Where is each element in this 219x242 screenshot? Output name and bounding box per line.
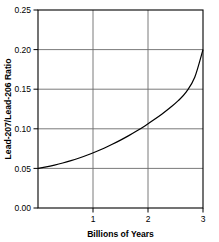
plot-area-background [38,10,203,208]
x-axis-title: Billions of Years [87,229,154,239]
x-tick-label-1: 2 [146,214,151,224]
y-axis-title: Lead-207/Lead-206 Ratio [3,59,13,160]
y-tick-label-4: 0.05 [14,164,31,174]
chart-container: 0.25 0.20 0.15 0.10 0.05 0.00 1 2 3 Bill… [0,0,219,242]
y-tick-label-3: 0.10 [14,124,31,134]
y-tick-label-2: 0.15 [14,84,31,94]
y-tick-label-1: 0.20 [14,45,31,55]
y-tick-label-5: 0.00 [14,203,31,213]
x-tick-label-2: 3 [201,214,206,224]
x-tick-label-0: 1 [91,214,96,224]
lead-isotope-ratio-chart: 0.25 0.20 0.15 0.10 0.05 0.00 1 2 3 Bill… [0,0,219,242]
y-tick-label-0: 0.25 [14,5,31,15]
